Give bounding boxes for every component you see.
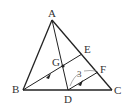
measurement-label-df: 3	[77, 69, 82, 79]
label-a: A	[48, 7, 56, 19]
side-ac	[52, 20, 112, 90]
measure-arc-df	[70, 71, 96, 87]
label-f: F	[100, 63, 106, 75]
label-d: D	[64, 93, 72, 105]
label-b: B	[12, 83, 19, 95]
label-c: C	[114, 84, 121, 96]
side-ab	[23, 20, 52, 90]
label-e: E	[84, 43, 91, 55]
label-g: G	[52, 56, 60, 68]
segment-ad	[52, 20, 68, 90]
geometry-figure: A B C D E F G 3	[0, 0, 129, 109]
point-g	[61, 64, 64, 67]
triangle-diagram: A B C D E F G 3	[0, 0, 129, 109]
